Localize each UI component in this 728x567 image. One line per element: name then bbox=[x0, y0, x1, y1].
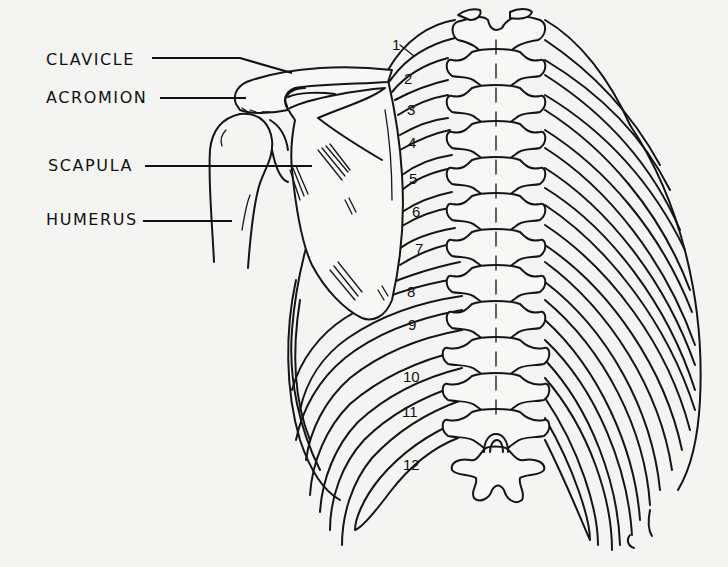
label-scapula: SCAPULA bbox=[48, 158, 133, 174]
right-ribs bbox=[545, 20, 701, 550]
label-clavicle: CLAVICLE bbox=[46, 52, 135, 68]
rib-number-12: 12 bbox=[403, 457, 420, 472]
rib-number-10: 10 bbox=[403, 369, 420, 384]
rib-number-6: 6 bbox=[412, 204, 420, 219]
label-humerus: HUMERUS bbox=[46, 212, 138, 228]
thorax-diagram: CLAVICLE ACROMION SCAPULA HUMERUS 1 2 3 … bbox=[0, 0, 728, 567]
rib-number-2: 2 bbox=[404, 71, 412, 86]
label-acromion: ACROMION bbox=[46, 90, 147, 106]
rib-number-8: 8 bbox=[407, 284, 415, 299]
skeleton-drawing bbox=[0, 0, 728, 567]
rib-number-4: 4 bbox=[408, 135, 416, 150]
rib-number-9: 9 bbox=[408, 317, 416, 332]
rib-number-3: 3 bbox=[407, 102, 415, 117]
scapula-bone bbox=[285, 80, 403, 319]
rib-number-1: 1 bbox=[392, 37, 400, 52]
rib-number-5: 5 bbox=[409, 171, 417, 186]
rib-number-11: 11 bbox=[402, 404, 418, 419]
vertebral-column bbox=[443, 9, 550, 502]
rib-number-7: 7 bbox=[415, 241, 423, 256]
humerus-bone bbox=[209, 114, 288, 268]
